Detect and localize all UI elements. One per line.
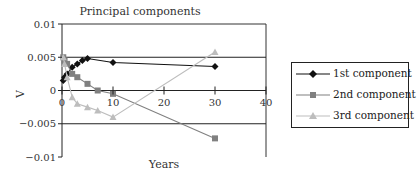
svg-text:−0.01: −0.01 [25,152,56,163]
svg-text:30: 30 [209,97,222,108]
x-axis-label: Years [148,158,180,171]
legend-item-3rd-component: 3rd component [292,107,408,125]
diamond-marker-icon [296,68,332,80]
legend-item-2nd-component: 2nd component [292,86,408,104]
svg-text:0: 0 [50,85,56,96]
svg-text:−0.005: −0.005 [19,118,56,129]
series-1 [60,55,219,84]
x-axis-ticks: 010203040 [59,87,273,108]
plot-area [60,24,266,157]
legend: 1st component 2nd component 3rd componen… [291,62,409,128]
square-marker-icon [296,89,332,101]
svg-text:0.01: 0.01 [34,19,56,30]
svg-text:20: 20 [158,97,171,108]
svg-text:0.005: 0.005 [27,52,56,63]
triangle-marker-icon [296,110,332,122]
legend-label: 2nd component [333,88,416,100]
chart-title: Principal components [79,5,201,18]
svg-text:0: 0 [59,97,65,108]
y-axis-label: V [14,89,27,99]
legend-label: 3rd component [333,109,414,121]
legend-label: 1st component [333,67,412,79]
series-2 [60,54,218,141]
svg-text:40: 40 [260,97,273,108]
legend-item-1st-component: 1st component [292,65,408,83]
svg-text:10: 10 [107,97,120,108]
